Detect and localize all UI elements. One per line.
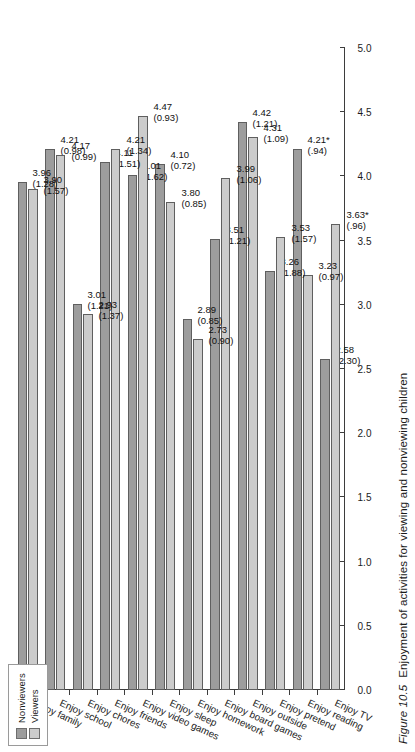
value-axis-tick-label: 2.0: [358, 428, 372, 439]
bar-viewers[interactable]: [248, 137, 257, 690]
bar-group: 3.26(1.88)3.53(1.57)Enjoy pretend: [262, 48, 290, 690]
bar-group: 4.21*(.94)3.23(0.97)Enjoy reading: [289, 48, 317, 690]
bar-sd-value: (1.34): [126, 145, 151, 156]
bar-mean-value: 4.47: [154, 102, 179, 113]
bar-viewers[interactable]: [28, 189, 37, 690]
bar-viewers[interactable]: [111, 149, 120, 690]
bar-nonviewers[interactable]: [265, 271, 274, 690]
bar-group: 3.51(1.21)3.99(1.06)Enjoy board games: [207, 48, 235, 690]
category-axis-tick: [179, 690, 180, 695]
bar-mean-value: 4.10: [170, 149, 195, 160]
bar-viewers[interactable]: [276, 237, 285, 690]
value-axis-tick-label: 4.5: [358, 107, 372, 118]
bar-value-label: 3.99(1.06): [236, 163, 261, 184]
bar-viewers[interactable]: [331, 224, 340, 690]
bar-value-label: 4.21(1.34): [126, 135, 151, 156]
bar-viewers[interactable]: [138, 116, 147, 690]
bar-nonviewers[interactable]: [45, 149, 54, 690]
bar-sd-value: (0.99): [71, 151, 96, 162]
bar-value-label: 3.23(0.97): [319, 261, 344, 282]
category-axis-tick: [69, 690, 70, 695]
bar-value-label: 3.53(1.57): [291, 222, 316, 243]
bar-sd-value: (1.57): [44, 185, 69, 196]
bar-value-label: 3.63*(.96): [346, 209, 368, 230]
bar-viewers[interactable]: [56, 155, 65, 690]
value-axis-tick-label: 1.0: [358, 556, 372, 567]
figure-caption: Figure 10.5Enjoyment of activities for v…: [397, 373, 409, 744]
figure-caption-text: Enjoyment of activities for viewing and …: [397, 373, 409, 678]
bar-value-label: 3.90(1.57): [44, 175, 69, 196]
bar-group: 4.11(1.51)4.21(1.34)Enjoy friends: [97, 48, 125, 690]
legend-swatch-icon: [16, 728, 27, 739]
bar-value-label: 2.89(0.85): [198, 304, 223, 325]
value-axis-tick-label: 3.5: [358, 235, 372, 246]
category-axis-tick: [289, 690, 290, 695]
category-axis-tick: [97, 690, 98, 695]
bar-viewers[interactable]: [221, 178, 230, 690]
bar-sd-value: (1.37): [99, 310, 124, 321]
bar-mean-value: 2.89: [198, 304, 223, 315]
category-axis-tick: [124, 690, 125, 695]
bar-nonviewers[interactable]: [238, 122, 247, 690]
bar-sd-value: (0.97): [319, 271, 344, 282]
bar-value-label: 4.31(1.09): [264, 122, 289, 143]
bar-sd-value: (.96): [346, 220, 368, 231]
category-axis-tick: [317, 690, 318, 695]
legend-item-nonviewers: Nonviewers: [16, 673, 27, 739]
bar-viewers[interactable]: [166, 202, 175, 690]
bar-sd-value: (.94): [308, 145, 330, 156]
bar-nonviewers[interactable]: [320, 359, 329, 690]
bar-sd-value: (0.72): [170, 160, 195, 171]
bar-mean-value: 3.63*: [346, 209, 368, 220]
bar-value-label: 2.93(1.37): [99, 299, 124, 320]
chart-legend: NonviewersViewers: [8, 664, 48, 746]
bar-nonviewers[interactable]: [73, 304, 82, 690]
value-axis-tick-label: 0.0: [358, 685, 372, 696]
bar-sd-value: (0.93): [154, 112, 179, 123]
bar-group: 4.10(0.72)3.80(0.85)Enjoy sleep: [152, 48, 180, 690]
bar-group: 4.42(1.21)4.31(1.09)Enjoy outside: [234, 48, 262, 690]
legend-swatch-icon: [29, 728, 40, 739]
bar-value-label: 4.10(0.72): [170, 149, 195, 170]
category-axis-tick: [234, 690, 235, 695]
bar-nonviewers[interactable]: [18, 182, 27, 690]
category-axis-line: [344, 48, 345, 690]
bar-value-label: 2.73(0.90): [209, 325, 234, 346]
bar-value-label: 4.17(0.99): [71, 140, 96, 161]
category-axis-tick: [262, 690, 263, 695]
legend-item-label: Viewers: [29, 689, 40, 723]
rotated-figure-page: 0.00.51.01.52.02.53.03.54.04.55.02.58(2.…: [0, 0, 415, 752]
bar-mean-value: 4.17: [71, 140, 96, 151]
bar-sd-value: (1.57): [291, 233, 316, 244]
bar-sd-value: (1.06): [236, 174, 261, 185]
bar-viewers[interactable]: [193, 339, 202, 690]
bar-nonviewers[interactable]: [100, 162, 109, 690]
bar-mean-value: 4.31: [264, 122, 289, 133]
bar-group: 2.89(0.85)2.73(0.90)Enjoy homework: [179, 48, 207, 690]
value-axis-tick-label: 0.5: [358, 620, 372, 631]
bar-sd-value: (0.85): [181, 198, 206, 209]
bar-sd-value: (1.09): [264, 133, 289, 144]
bar-nonviewers[interactable]: [183, 319, 192, 690]
bar-mean-value: 2.93: [99, 299, 124, 310]
bar-sd-value: (0.90): [209, 335, 234, 346]
bar-group: 3.96(1.28)3.90(1.57)Enjoy family: [14, 48, 42, 690]
bar-value-label: 3.80(0.85): [181, 188, 206, 209]
bar-chart-plot: 0.00.51.01.52.02.53.03.54.04.55.02.58(2.…: [14, 48, 344, 690]
legend-item-label: Nonviewers: [16, 673, 27, 723]
figure-number: Figure 10.5: [397, 685, 409, 744]
bar-mean-value: 3.99: [236, 163, 261, 174]
bar-nonviewers[interactable]: [155, 164, 164, 690]
category-axis-tick: [207, 690, 208, 695]
value-axis-tick-label: 5.0: [358, 43, 372, 54]
bar-group: 4.21(0.98)4.17(0.99)Enjoy school: [42, 48, 70, 690]
value-axis-tick-label: 3.0: [358, 299, 372, 310]
bar-value-label: 4.21*(.94): [308, 135, 330, 156]
value-axis-tick-label: 1.5: [358, 492, 372, 503]
bar-nonviewers[interactable]: [128, 175, 137, 690]
category-axis-tick: [152, 690, 153, 695]
legend-item-viewers: Viewers: [29, 673, 40, 739]
bar-value-label: 4.47(0.93): [154, 102, 179, 123]
bar-viewers[interactable]: [83, 314, 92, 690]
bar-viewers[interactable]: [303, 275, 312, 690]
